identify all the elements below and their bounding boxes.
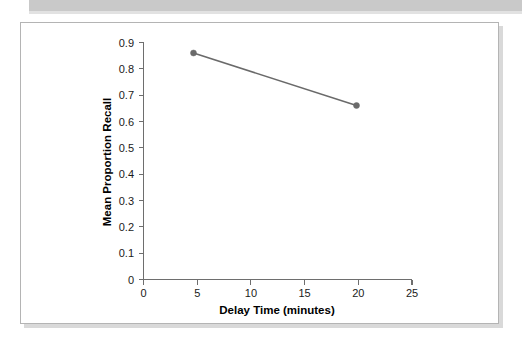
y-tick-label: 0.1: [119, 247, 134, 259]
y-tick-label: 0.7: [119, 89, 134, 101]
x-tick-labels: 0 5 10 15 20 25: [140, 287, 418, 299]
y-tick-label: 0.9: [119, 37, 134, 49]
x-tick-label: 5: [194, 287, 200, 299]
x-tick-label: 15: [298, 287, 310, 299]
y-axis-title: Mean Proportion Recall: [101, 98, 113, 226]
x-tick-label: 20: [352, 287, 364, 299]
data-series: [191, 50, 360, 109]
y-tick-marks: [139, 43, 144, 280]
y-tick-label: 0.4: [119, 168, 134, 180]
series-line: [194, 53, 357, 106]
y-tick-label: 0: [128, 274, 134, 286]
y-tick-label: 0.8: [119, 63, 134, 75]
y-tick-label: 0.2: [119, 221, 134, 233]
data-point-marker: [354, 103, 360, 109]
x-tick-marks: [144, 280, 413, 285]
x-tick-label: 25: [406, 287, 418, 299]
x-tick-label: 0: [140, 287, 146, 299]
data-point-marker: [191, 50, 197, 56]
y-tick-labels: 0.9 0.8 0.7 0.6 0.5 0.4 0.3 0.2 0.1 0: [119, 37, 134, 286]
y-tick-label: 0.6: [119, 116, 134, 128]
y-tick-label: 0.5: [119, 142, 134, 154]
x-tick-label: 10: [245, 287, 257, 299]
y-tick-label: 0.3: [119, 195, 134, 207]
figure-page: 0.9 0.8 0.7 0.6 0.5 0.4 0.3 0.2 0.1 0 0 …: [0, 0, 522, 345]
x-axis-title: Delay Time (minutes): [219, 304, 335, 316]
line-chart: 0.9 0.8 0.7 0.6 0.5 0.4 0.3 0.2 0.1 0 0 …: [0, 0, 522, 345]
